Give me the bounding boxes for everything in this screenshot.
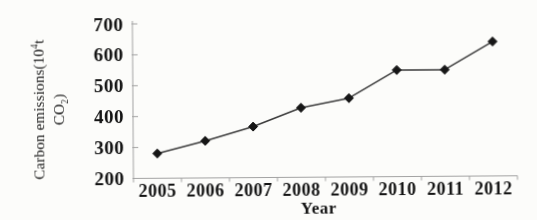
y-tick-label: 300 [94,137,124,158]
chart-svg: 2003004005006007002005200620072008200920… [0,0,537,220]
data-point [344,94,353,103]
data-point [201,136,210,145]
y-tick-label: 700 [93,14,123,35]
y-tick-label: 500 [94,75,124,96]
y-tick-label: 200 [94,168,124,189]
data-point [440,65,449,74]
x-tick-label: 2006 [186,180,224,200]
x-tick-label: 2010 [378,179,416,199]
x-tick-label: 2011 [427,179,464,199]
data-point [153,149,162,158]
x-tick-label: 2008 [282,180,320,200]
axis-lines [132,18,517,178]
x-tick-label: 2012 [474,178,512,198]
y-tick-label: 400 [94,106,124,127]
x-tick-label: 2009 [330,179,368,199]
series-line [157,42,494,154]
x-axis-title: Year [134,197,504,220]
data-point [488,37,497,46]
data-point [296,103,305,112]
x-tick-label: 2005 [138,181,176,201]
chart-figure: Carbon emissions(104t CO2) 2003004005006… [0,0,537,220]
data-point [249,122,258,131]
y-tick-label: 600 [94,44,124,65]
chart-scan-layer: Carbon emissions(104t CO2) 2003004005006… [0,0,537,220]
x-tick-label: 2007 [234,180,272,200]
data-point [392,65,401,74]
